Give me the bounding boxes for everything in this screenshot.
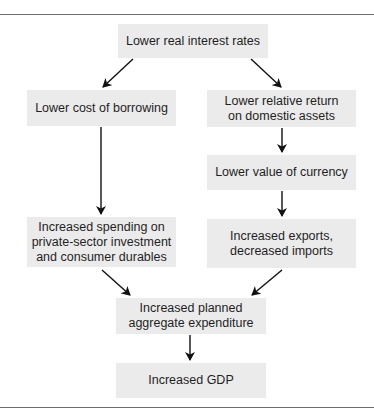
arrow-rates-to-return (251, 59, 281, 87)
arrow-rates-to-borrowing (103, 59, 133, 87)
arrow-spending-to-expenditure (102, 270, 130, 295)
arrows-layer (0, 0, 374, 415)
arrow-exports-to-expenditure (252, 270, 282, 295)
